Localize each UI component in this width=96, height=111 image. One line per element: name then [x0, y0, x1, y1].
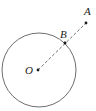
point-o: [37, 69, 40, 72]
label-a: A: [83, 5, 91, 17]
point-a: [85, 22, 88, 25]
point-b: [64, 42, 67, 45]
label-o: O: [25, 64, 33, 76]
label-b: B: [60, 28, 67, 40]
geometry-diagram: O B A: [0, 0, 96, 111]
